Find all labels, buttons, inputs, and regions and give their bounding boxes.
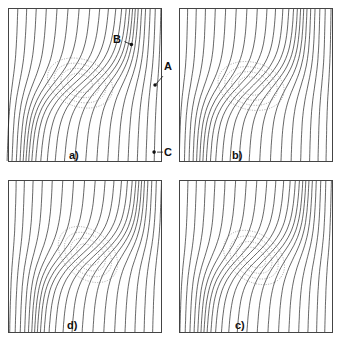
point-label-c: C xyxy=(164,146,172,158)
contour-plot-c xyxy=(180,181,332,332)
contour-line xyxy=(44,181,105,332)
contour-line xyxy=(249,9,297,161)
contour-line xyxy=(35,181,74,332)
contour-line xyxy=(180,181,188,332)
contour-line xyxy=(29,9,79,161)
panel-b: b) xyxy=(179,8,333,162)
contour-line xyxy=(203,9,247,161)
contour-line xyxy=(190,181,205,332)
contour-line xyxy=(137,9,150,161)
contour-line xyxy=(153,181,161,332)
contour-line xyxy=(239,9,293,161)
contour-line xyxy=(326,9,331,161)
contour-line xyxy=(10,181,16,332)
contour-line xyxy=(184,9,196,161)
panel-d: d) xyxy=(8,180,162,333)
contour-line xyxy=(237,181,295,332)
contour-line xyxy=(180,9,188,161)
contour-line xyxy=(64,9,126,161)
contour-line xyxy=(20,9,46,161)
contour-line xyxy=(230,9,289,161)
contour-line xyxy=(49,181,114,332)
contour-line xyxy=(75,9,130,161)
dotted-region xyxy=(213,219,295,296)
dotted-region xyxy=(222,227,287,288)
contour-plot-b xyxy=(180,9,332,161)
contour-line xyxy=(325,181,332,332)
contour-line xyxy=(20,181,33,332)
contour-line xyxy=(207,181,257,332)
contour-line xyxy=(40,181,95,332)
contour-line xyxy=(201,181,236,332)
panel-label-b: b) xyxy=(232,149,242,161)
panel-a: a) xyxy=(8,8,162,162)
leader-line xyxy=(155,76,163,85)
panel-c: c) xyxy=(179,180,333,333)
dotted-region xyxy=(230,235,278,280)
contour-line xyxy=(189,9,205,161)
contour-line xyxy=(317,181,326,332)
contour-line xyxy=(144,181,156,332)
panel-label-d: d) xyxy=(67,319,77,331)
dotted-region xyxy=(40,49,119,116)
point-label-b: B xyxy=(113,33,121,45)
contour-line xyxy=(7,9,18,161)
contour-plot-a xyxy=(9,9,161,161)
point-label-a: A xyxy=(164,60,172,72)
contour-line xyxy=(198,181,225,332)
dotted-region xyxy=(65,70,95,95)
contour-line xyxy=(82,181,136,332)
contour-line xyxy=(23,9,57,161)
contour-line xyxy=(281,9,307,161)
contour-line xyxy=(211,181,267,332)
contour-line xyxy=(308,181,321,332)
point-c-marker xyxy=(152,150,156,154)
contour-line xyxy=(55,9,121,161)
dotted-region xyxy=(56,223,121,286)
contour-line xyxy=(36,9,100,161)
panel-label-a: a) xyxy=(69,149,79,161)
contour-line xyxy=(15,181,24,332)
contour-line xyxy=(32,9,90,161)
panel-label-c: c) xyxy=(235,319,245,331)
contour-line xyxy=(72,181,132,332)
contour-plot-d xyxy=(9,181,161,332)
dotted-region xyxy=(47,215,128,294)
